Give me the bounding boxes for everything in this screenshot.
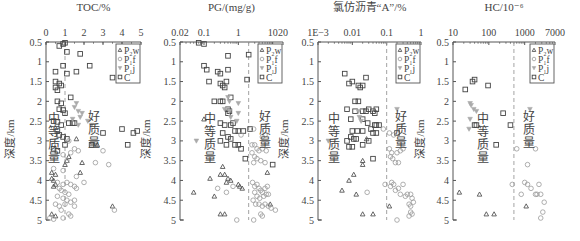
annotation-medium-quality: 质	[477, 138, 489, 152]
annotation-good-quality: 量	[523, 136, 535, 150]
y-axis-title: 深度/km	[277, 119, 290, 159]
annotation-medium-quality: 等	[328, 125, 340, 139]
annotation-good-quality: 质	[88, 123, 100, 137]
y-tick-label: 3	[37, 135, 42, 146]
annotation-good-quality: 量	[395, 136, 407, 150]
annotation-medium-quality: 等	[204, 125, 216, 139]
x-tick-label: 7000	[545, 27, 565, 38]
legend-entry: C	[266, 73, 272, 83]
legend-entry: C	[538, 73, 544, 83]
x-tick-label: 5	[139, 27, 144, 38]
x-tick-label: 0	[44, 27, 49, 38]
y-tick-label: 5	[37, 215, 42, 226]
annotation-medium-quality: 等	[477, 125, 489, 139]
legend: P₂wP₁fP₁jC	[530, 44, 554, 83]
y-tick-label: 2.5	[30, 116, 43, 127]
x-tick-label: 1000	[515, 27, 535, 38]
x-tick-label: 4	[120, 27, 125, 38]
annotation-good-quality: 质	[523, 123, 535, 137]
annotation-medium-quality: 质	[48, 138, 60, 152]
geochemistry-depth-profile-figure: TOC/%0123450.511.522.533.544.55深度/km中等质量…	[0, 0, 580, 241]
series-P₂w	[457, 190, 528, 216]
annotation-good-quality: 好	[523, 110, 535, 124]
y-tick-label: 4	[37, 175, 42, 186]
y-axis-title: 深度/km	[139, 119, 152, 159]
y-tick-label: 1	[37, 56, 42, 67]
annotation-good-quality: 好	[259, 110, 271, 124]
x-tick-label: 10	[268, 27, 278, 38]
annotation-good-quality: 量	[259, 136, 271, 150]
y-tick-label: 4	[309, 175, 314, 186]
annotation-medium-quality: 量	[204, 151, 216, 165]
y-tick-label: 1	[171, 56, 176, 67]
y-tick-label: 1.5	[437, 76, 450, 87]
x-tick-label: 0.1	[380, 27, 393, 38]
series-P₁j	[194, 96, 241, 144]
x-tick-label: 0.1	[198, 27, 211, 38]
y-tick-label: 4	[171, 175, 176, 186]
y-tick-label: 2.5	[164, 116, 177, 127]
y-tick-label: 1	[444, 56, 449, 67]
y-tick-label: 2	[171, 96, 176, 107]
y-tick-label: 4.5	[164, 195, 177, 206]
annotation-medium-quality: 质	[204, 138, 216, 152]
legend: P₂wP₁fP₁jC	[396, 44, 420, 83]
annotation-medium-quality: 等	[48, 125, 60, 139]
x-tick-label: 10	[448, 27, 458, 38]
y-tick-label: 2	[444, 96, 449, 107]
y-tick-label: 1	[309, 56, 314, 67]
x-axis-title: TOC/%	[76, 1, 110, 13]
annotation-medium-quality: 中	[477, 111, 489, 126]
annotation-medium-quality: 量	[477, 151, 489, 165]
annotation-good-quality: 质	[259, 123, 271, 137]
annotation-good-quality: 好	[88, 110, 100, 124]
annotation-good-quality: 量	[88, 136, 100, 150]
chart-panel-3: 氯仿沥青“A”/%1E−30.010.110.511.522.533.544.5…	[277, 0, 424, 226]
y-axis-title: 深度/km	[413, 119, 426, 159]
x-axis-title: PG/(mg/g)	[208, 1, 255, 14]
x-tick-label: 1	[63, 27, 68, 38]
legend: P₂wP₁fP₁jC	[258, 44, 282, 83]
annotation-good-quality: 好	[395, 110, 407, 124]
x-axis-title: 氯仿沥青“A”/%	[333, 0, 407, 13]
y-axis-title: 深度/km	[3, 119, 16, 159]
annotation-medium-quality: 中	[48, 111, 60, 126]
y-tick-label: 0.5	[30, 37, 43, 48]
chart-panel-2: PG/(mg/g)0.020.1110200.511.522.533.544.5…	[139, 1, 288, 226]
x-tick-label: 3	[101, 27, 106, 38]
y-tick-label: 3	[171, 135, 176, 146]
y-tick-label: 5	[171, 215, 176, 226]
y-tick-label: 2.5	[302, 116, 315, 127]
y-tick-label: 3.5	[302, 155, 315, 166]
y-tick-label: 1.5	[302, 76, 315, 87]
x-axis-title: HC/10⁻⁶	[485, 1, 524, 13]
legend-entry: C	[404, 73, 410, 83]
series-P₁f	[510, 147, 547, 221]
y-tick-label: 2.5	[437, 116, 450, 127]
legend-entry: C	[124, 73, 130, 83]
y-tick-label: 1.5	[30, 76, 43, 87]
y-tick-label: 3	[309, 135, 314, 146]
chart-panel-4: HC/10⁻⁶10100100070000.511.522.533.544.55…	[413, 1, 565, 226]
y-tick-label: 0.5	[437, 37, 450, 48]
y-tick-label: 4.5	[30, 195, 43, 206]
x-tick-label: 1	[419, 27, 424, 38]
y-tick-label: 2	[37, 96, 42, 107]
y-tick-label: 5	[444, 215, 449, 226]
y-tick-label: 0.5	[164, 37, 177, 48]
x-tick-label: 0.01	[344, 27, 362, 38]
annotation-medium-quality: 中	[204, 111, 216, 126]
x-tick-label: 20	[278, 27, 288, 38]
y-tick-label: 3	[444, 135, 449, 146]
annotation-good-quality: 质	[395, 123, 407, 137]
y-tick-label: 2	[309, 96, 314, 107]
annotation-medium-quality: 量	[48, 151, 60, 165]
y-tick-label: 1.5	[164, 76, 177, 87]
y-tick-label: 3.5	[30, 155, 43, 166]
annotation-medium-quality: 量	[328, 151, 340, 165]
chart-panel-1: TOC/%0123450.511.522.533.544.55深度/km中等质量…	[3, 1, 144, 226]
y-tick-label: 5	[309, 215, 314, 226]
x-tick-label: 2	[82, 27, 87, 38]
series-C	[342, 71, 399, 161]
annotation-medium-quality: 中	[328, 111, 340, 126]
